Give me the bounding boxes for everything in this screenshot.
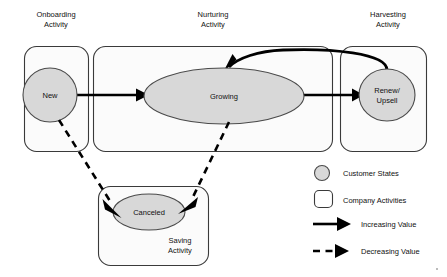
state-label-renew-upsell-line1: Renew/ [374,86,400,95]
activity-label-onboarding-line2: Activity [44,20,68,29]
activity-label-harvesting-line2: Activity [376,20,400,29]
legend-dashed-arrow-head-icon [335,244,349,258]
activity-label-saving-line1: Saving [169,236,192,245]
legend-rounded-square-icon [315,191,333,208]
activity-label-onboarding-line1: Onboarding [36,10,75,19]
customer-lifecycle-diagram: Onboarding Activity Nurturing Activity H… [0,0,447,277]
state-shape-renew-upsell[interactable] [359,69,415,121]
state-label-renew-upsell-line2: Upsell [377,96,398,105]
legend-label-decreasing-value: Decreasing Value [361,247,420,256]
activity-label-nurturing-line2: Activity [201,20,225,29]
diagram-canvas: Onboarding Activity Nurturing Activity H… [0,0,447,277]
legend-solid-arrow-head-icon [337,217,351,231]
activity-label-saving-line2: Activity [168,246,192,255]
state-label-canceled: Canceled [133,208,165,217]
legend-item-decreasing-value[interactable]: Decreasing Value [313,244,420,258]
legend-label-increasing-value: Increasing Value [361,220,416,229]
activity-label-nurturing-line1: Nurturing [198,10,229,19]
legend-item-increasing-value[interactable]: Increasing Value [313,217,416,231]
legend-item-company-activities[interactable]: Company Activities [315,191,407,208]
state-label-growing: Growing [210,92,238,101]
scan-artifact-speck [436,268,438,270]
legend-label-customer-states: Customer States [343,169,399,178]
legend-label-company-activities: Company Activities [343,196,407,205]
activity-label-harvesting-line1: Harvesting [370,10,406,19]
state-label-new: New [42,91,58,100]
legend: Customer States Company Activities Incre… [313,166,420,259]
legend-circle-icon [315,166,330,181]
legend-item-customer-states[interactable]: Customer States [315,166,400,181]
